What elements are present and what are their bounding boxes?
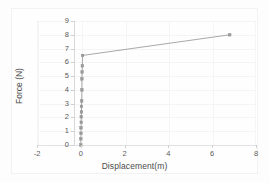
data-point-marker [81, 89, 84, 92]
y-axis-tick-mark [71, 62, 74, 63]
y-axis-tick-mark [71, 21, 74, 22]
x-axis-tick-label: 2 [115, 150, 135, 158]
data-point-marker [80, 100, 83, 103]
x-axis-title: Displacement(m) [0, 161, 269, 171]
x-axis-tick-mark [37, 145, 38, 148]
y-axis-tick-mark [71, 131, 74, 132]
y-axis-tick-label: 4 [55, 86, 69, 94]
data-point-marker [81, 54, 84, 57]
y-axis-tick-label: 6 [55, 58, 69, 66]
data-point-marker [80, 126, 83, 129]
x-axis-tick-label: 4 [158, 150, 178, 158]
y-axis-tick-label: 8 [55, 31, 69, 39]
data-point-marker [228, 33, 231, 36]
x-axis-tick-mark [81, 145, 82, 148]
x-axis-tick-mark [125, 145, 126, 148]
y-axis-tick-mark [71, 90, 74, 91]
y-axis-tick-label: 2 [55, 113, 69, 121]
y-axis-tick-mark [71, 49, 74, 50]
y-axis-tick-label: 9 [55, 17, 69, 25]
data-point-marker [80, 121, 83, 124]
y-axis-tick-mark [71, 145, 74, 146]
y-axis-tick-mark [71, 76, 74, 77]
force-displacement-chart: Force (N) Displacement(m) 0123456789-202… [0, 0, 269, 183]
y-axis-tick-label: 7 [55, 45, 69, 53]
y-axis-title-wrap: Force (N) [13, 55, 25, 125]
data-point-marker [80, 132, 83, 135]
x-axis-tick-mark [212, 145, 213, 148]
y-axis-tick-mark [71, 104, 74, 105]
y-axis-title: Force (N) [14, 51, 24, 121]
data-point-marker [81, 78, 84, 81]
data-point-marker [80, 115, 83, 118]
x-axis-tick-label: 6 [202, 150, 222, 158]
y-axis-tick-mark [71, 35, 74, 36]
data-point-marker [80, 138, 83, 141]
y-axis-tick-mark [71, 117, 74, 118]
x-axis-tick-mark [256, 145, 257, 148]
data-point-marker [81, 71, 84, 74]
x-axis-tick-label: 8 [246, 150, 266, 158]
x-axis-tick-label: -2 [27, 150, 47, 158]
x-axis-tick-mark [168, 145, 169, 148]
y-axis-tick-label: 5 [55, 72, 69, 80]
y-axis-tick-label: 0 [55, 141, 69, 149]
x-axis-tick-label: 0 [71, 150, 91, 158]
data-line [81, 35, 230, 145]
data-point-marker [80, 111, 83, 114]
data-point-marker [80, 105, 83, 108]
y-axis-tick-label: 1 [55, 127, 69, 135]
data-point-marker [81, 64, 84, 67]
y-axis-tick-label: 3 [55, 100, 69, 108]
